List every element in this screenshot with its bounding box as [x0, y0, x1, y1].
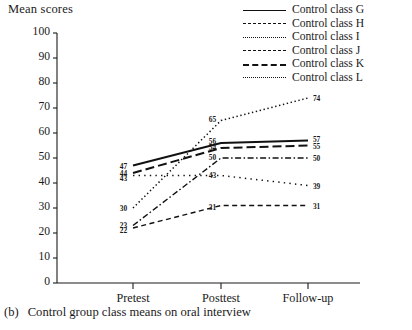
plot-area: [0, 0, 412, 330]
data-point-label: 43: [105, 174, 127, 183]
y-axis-tick-label: 10: [8, 250, 50, 263]
y-axis-tick-label: 70: [8, 100, 50, 113]
series-line-control-class-l: [133, 176, 308, 186]
data-series-lines: [133, 98, 308, 228]
data-point-label: 74: [313, 94, 320, 103]
data-point-label: 65: [194, 115, 216, 124]
data-point-label: 50: [313, 154, 320, 163]
y-axis-tick-label: 50: [8, 150, 50, 163]
caption-text: Control group class means on oral interv…: [28, 305, 251, 319]
y-axis-tick-label: 60: [8, 125, 50, 138]
x-axis-tick-label: Pretest: [83, 291, 183, 306]
series-line-control-class-g: [133, 141, 308, 166]
data-point-label: 22: [105, 226, 127, 235]
data-point-label: 50: [194, 153, 216, 162]
x-axis-tick-label: Posttest: [171, 291, 271, 306]
data-point-label: 54: [194, 143, 216, 152]
caption-number: (b): [4, 305, 19, 319]
data-point-label: 30: [105, 204, 127, 213]
y-axis-tick-label: 90: [8, 50, 50, 63]
x-axis-tick-label: Follow-up: [258, 291, 358, 306]
series-line-control-class-i: [133, 98, 308, 208]
data-point-label: 39: [313, 182, 320, 191]
data-point-label: 55: [313, 142, 320, 151]
y-axis-tick-label: 100: [8, 25, 50, 38]
y-axis-tick-label: 0: [8, 275, 50, 288]
y-axis-ticks: [53, 33, 57, 283]
y-axis-tick-label: 80: [8, 75, 50, 88]
figure-control-group-oral-interview: Mean scores Control class G Control clas…: [0, 0, 412, 330]
figure-caption: (b)Control group class means on oral int…: [4, 305, 251, 320]
data-point-label: 31: [313, 202, 320, 211]
series-line-control-class-j: [133, 158, 308, 226]
data-point-label: 43: [194, 171, 216, 180]
x-axis-ticks: [133, 283, 308, 289]
y-axis-tick-label: 20: [8, 225, 50, 238]
series-line-control-class-h: [133, 206, 308, 229]
y-axis-tick-label: 30: [8, 200, 50, 213]
y-axis-tick-label: 40: [8, 175, 50, 188]
data-point-label: 31: [194, 203, 216, 212]
